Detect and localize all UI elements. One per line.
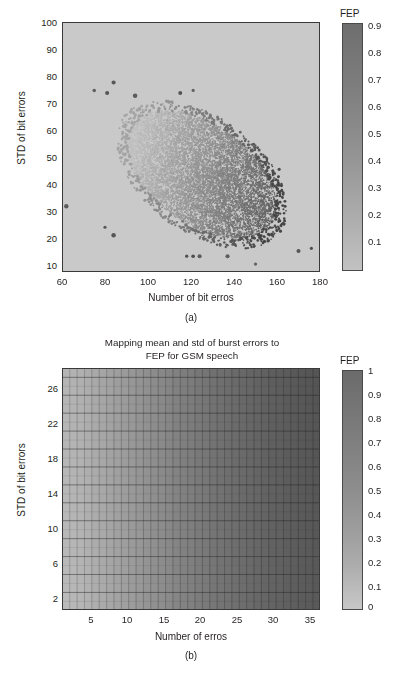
panel-b-x-axis-title: Number of erros <box>62 631 320 642</box>
panel-b-colorbar-title: FEP <box>340 355 359 366</box>
panel-a-ytick-100: 100 <box>27 18 57 28</box>
panel-b-colorbar-tick-0: 0 <box>368 602 373 612</box>
panel-a-colorbar-tick-0.6: 0.6 <box>368 102 381 112</box>
panel-b-colorbar-tick-0.4: 0.4 <box>368 510 381 520</box>
panel-b-xtick-15: 15 <box>151 615 177 625</box>
panel-a-ytick-50: 50 <box>27 153 57 163</box>
panel-a-xtick-100: 100 <box>133 277 163 287</box>
panel-a-ytick-20: 20 <box>27 234 57 244</box>
figure-root: STD of bit errors 100 90 80 70 60 50 40 … <box>0 0 408 674</box>
panel-a-ytick-30: 30 <box>27 207 57 217</box>
panel-a-xtick-160: 160 <box>262 277 292 287</box>
panel-b-colorbar <box>342 370 363 610</box>
panel-b-xtick-30: 30 <box>260 615 286 625</box>
panel-b-xtick-35: 35 <box>297 615 323 625</box>
panel-a-colorbar-title: FEP <box>340 8 359 19</box>
panel-b-colorbar-tick-0.3: 0.3 <box>368 534 381 544</box>
panel-b-y-axis-title: STD of bit errors <box>16 385 27 575</box>
panel-a-xtick-60: 60 <box>47 277 77 287</box>
panel-a-xtick-80: 80 <box>90 277 120 287</box>
panel-a-colorbar-tick-0.7: 0.7 <box>368 75 381 85</box>
panel-a-colorbar <box>342 23 363 271</box>
panel-b-colorbar-tick-0.2: 0.2 <box>368 558 381 568</box>
panel-a-plot-area <box>62 22 320 272</box>
panel-b-xtick-20: 20 <box>187 615 213 625</box>
panel-a-x-axis-title: Number of bit erros <box>62 292 320 303</box>
panel-b-ytick-6: 6 <box>30 559 58 569</box>
panel-b-colorbar-tick-0.5: 0.5 <box>368 486 381 496</box>
panel-b-ytick-26: 26 <box>30 384 58 394</box>
panel-b-title: Mapping mean and std of burst errors to … <box>52 337 332 362</box>
panel-b-colorbar-tick-0.6: 0.6 <box>368 462 381 472</box>
panel-b-colorbar-tick-0.8: 0.8 <box>368 414 381 424</box>
panel-a-xtick-140: 140 <box>219 277 249 287</box>
panel-b-ytick-18: 18 <box>30 454 58 464</box>
panel-a-colorbar-tick-0.5: 0.5 <box>368 129 381 139</box>
panel-b-subfigure-label: (b) <box>62 650 320 661</box>
panel-a-subfigure-label: (a) <box>62 312 320 323</box>
panel-b-xtick-10: 10 <box>114 615 140 625</box>
panel-a-ytick-60: 60 <box>27 126 57 136</box>
panel-b-ytick-2: 2 <box>30 594 58 604</box>
panel-a-colorbar-tick-0.8: 0.8 <box>368 48 381 58</box>
panel-b-xtick-5: 5 <box>78 615 104 625</box>
panel-b-ytick-10: 10 <box>30 524 58 534</box>
panel-a-ytick-10: 10 <box>27 261 57 271</box>
panel-a-colorbar-tick-0.3: 0.3 <box>368 183 381 193</box>
panel-a-colorbar-tick-0.4: 0.4 <box>368 156 381 166</box>
panel-b-colorbar-tick-0.7: 0.7 <box>368 438 381 448</box>
panel-a-ytick-80: 80 <box>27 72 57 82</box>
panel-a-colorbar-tick-0.9: 0.9 <box>368 21 381 31</box>
panel-a-xtick-180: 180 <box>305 277 335 287</box>
panel-b-ytick-22: 22 <box>30 419 58 429</box>
panel-b-xtick-25: 25 <box>224 615 250 625</box>
panel-b: Mapping mean and std of burst errors to … <box>0 330 408 674</box>
panel-b-colorbar-tick-1: 1 <box>368 366 373 376</box>
panel-b-colorbar-tick-0.9: 0.9 <box>368 390 381 400</box>
panel-a-xtick-120: 120 <box>176 277 206 287</box>
panel-b-ytick-14: 14 <box>30 489 58 499</box>
panel-a-ytick-90: 90 <box>27 45 57 55</box>
panel-a-colorbar-tick-0.2: 0.2 <box>368 210 381 220</box>
panel-a-y-axis-title: STD of bit errors <box>16 38 27 218</box>
panel-a-ytick-40: 40 <box>27 180 57 190</box>
panel-b-plot-area <box>62 368 320 610</box>
panel-a: STD of bit errors 100 90 80 70 60 50 40 … <box>0 0 408 330</box>
panel-b-colorbar-tick-0.1: 0.1 <box>368 582 381 592</box>
panel-a-colorbar-tick-0.1: 0.1 <box>368 237 381 247</box>
panel-a-ytick-70: 70 <box>27 99 57 109</box>
